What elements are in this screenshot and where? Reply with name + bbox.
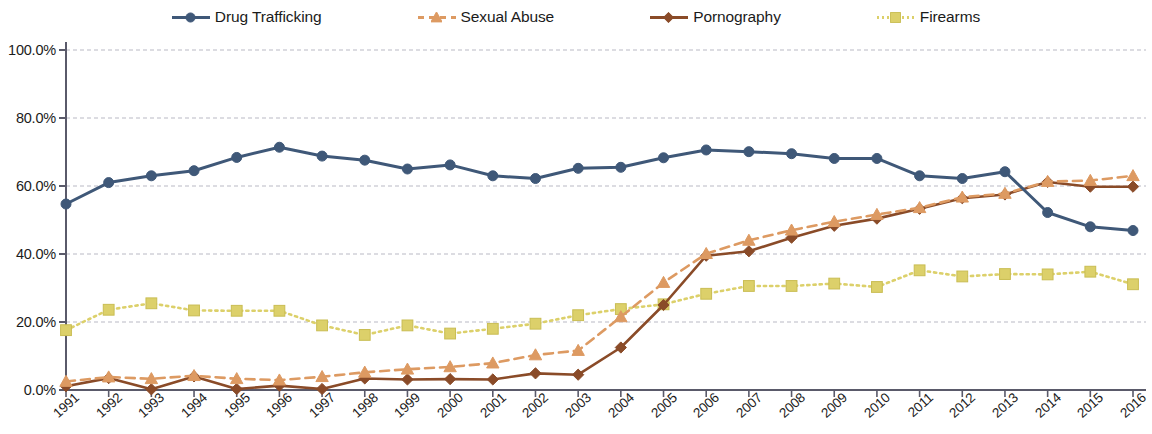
legend-swatch-icon [418,10,456,24]
x-axis-tick-label: 2013 [980,390,1021,429]
x-axis-tick-label: 2012 [937,390,978,429]
x-axis-tick-label: 1998 [340,390,381,429]
x-axis-tick-label: 1993 [126,390,167,429]
data-point [1042,269,1053,280]
data-point [360,155,370,165]
data-point [488,171,498,181]
x-axis-tick-label: 2004 [596,390,637,429]
data-point [1127,181,1138,192]
data-point [573,163,583,173]
data-point [317,151,327,161]
x-axis-tick-label: 1996 [254,390,295,429]
x-axis-tick-label: 2014 [1022,390,1063,429]
data-point [402,164,412,174]
data-point [189,166,199,176]
x-axis-tick-label: 2007 [724,390,765,429]
data-point [529,349,541,360]
data-point [1000,167,1010,177]
data-point [402,320,413,331]
data-point [1043,208,1053,218]
data-point [146,171,156,181]
data-point [1128,226,1138,236]
x-axis-tick-label: 2002 [510,390,551,429]
data-point [104,178,114,188]
x-axis-tick-label: 2008 [766,390,807,429]
x-axis-tick-label: 1991 [41,390,82,429]
data-point [103,304,114,315]
data-point [445,160,455,170]
x-axis-tick-label: 1997 [297,390,338,429]
data-point [786,281,797,292]
x-axis-tick-label: 1995 [212,390,253,429]
series-firearms [61,265,1139,340]
data-point [915,171,925,181]
data-point [659,153,669,163]
legend-item-sexual-abuse[interactable]: Sexual Abuse [418,8,555,26]
data-point [1085,222,1095,232]
series-drug-trafficking [61,142,1138,235]
data-point [274,305,285,316]
x-axis-tick-label: 1992 [83,390,124,429]
legend-item-drug-trafficking[interactable]: Drug Trafficking [172,8,322,26]
data-point [743,246,754,257]
data-point [872,153,882,163]
legend-label: Sexual Abuse [461,8,555,26]
data-point [445,374,456,385]
data-point [657,276,669,287]
data-point [530,368,541,379]
data-point [189,305,200,316]
x-axis-tick-label: 1999 [382,390,423,429]
x-axis-tick-label: 2009 [809,390,850,429]
data-point [616,162,626,172]
data-point [1128,279,1139,290]
data-point [231,305,242,316]
legend-label: Drug Trafficking [215,8,322,26]
data-point [61,199,71,209]
data-point [232,152,242,162]
series-sexual-abuse [60,170,1139,387]
axes [59,42,1146,397]
x-axis-tick-label: 2005 [638,390,679,429]
data-point [1085,266,1096,277]
legend-label: Firearms [920,8,980,26]
data-point [872,282,883,293]
data-point [61,325,72,336]
data-point [787,149,797,159]
legend-item-firearms[interactable]: Firearms [877,8,980,26]
data-point [487,374,498,385]
data-point [530,174,540,184]
data-point [1000,269,1011,280]
legend-item-pornography[interactable]: Pornography [650,8,781,26]
x-axis-tick-label: 2010 [852,390,893,429]
data-point [530,318,541,329]
gridlines [66,50,1146,322]
x-axis-tick-label: 2006 [681,390,722,429]
data-point [146,298,157,309]
data-point [914,265,925,276]
chart-legend: Drug TraffickingSexual AbusePornographyF… [0,0,1152,34]
data-point [359,330,370,341]
data-point [957,174,967,184]
x-axis-tick-label: 1994 [169,390,210,429]
x-axis-tick-label: 2015 [1065,390,1106,429]
data-point [317,320,328,331]
line-chart: Drug TraffickingSexual AbusePornographyF… [0,0,1152,434]
legend-swatch-icon [172,10,210,24]
data-point [701,288,712,299]
data-point [445,328,456,339]
plot-area: 0.0%20.0%40.0%60.0%80.0%100.0% 199119921… [0,34,1152,434]
series-pornography [60,176,1138,395]
legend-label: Pornography [693,8,781,26]
legend-swatch-icon [650,10,688,24]
data-point [274,142,284,152]
data-point [1127,170,1139,181]
data-point [573,310,584,321]
x-axis-tick-labels: 1991199219931994199519961997199819992000… [0,386,1152,434]
data-point [829,278,840,289]
data-point [744,147,754,157]
x-axis-tick-label: 2001 [468,390,509,429]
data-point [402,374,413,385]
data-point [743,281,754,292]
x-axis-tick-label: 2003 [553,390,594,429]
data-point [829,153,839,163]
